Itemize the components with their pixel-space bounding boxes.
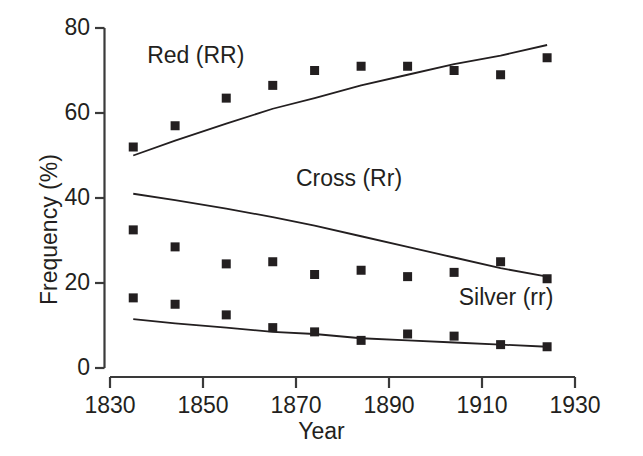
data-marker (496, 70, 505, 79)
x-tick-label: 1910 (442, 392, 522, 419)
data-marker (129, 225, 138, 234)
data-marker (310, 66, 319, 75)
data-marker (222, 310, 231, 319)
x-tick-label: 1830 (70, 392, 150, 419)
y-tick-label: 20 (64, 269, 90, 296)
data-marker (129, 293, 138, 302)
data-marker (222, 259, 231, 268)
data-marker (129, 143, 138, 152)
data-marker (403, 272, 412, 281)
y-axis-title: Frequency (%) (36, 154, 63, 305)
data-marker (357, 336, 366, 345)
data-marker (450, 332, 459, 341)
data-marker (357, 62, 366, 71)
data-marker (496, 340, 505, 349)
y-tick-label: 60 (64, 99, 90, 126)
chart-figure: Frequency (%) Year 020406080 18301850187… (0, 0, 643, 456)
data-marker (543, 53, 552, 62)
data-marker (171, 242, 180, 251)
y-tick-label: 80 (64, 14, 90, 41)
data-marker (496, 257, 505, 266)
data-marker (310, 270, 319, 279)
data-marker (543, 342, 552, 351)
data-marker (171, 121, 180, 130)
data-marker (310, 327, 319, 336)
data-marker (268, 81, 277, 90)
chart-plot-area (0, 0, 643, 456)
series-label-red-rr: Red (RR) (147, 42, 244, 69)
data-marker (450, 66, 459, 75)
data-marker (222, 94, 231, 103)
data-marker (268, 323, 277, 332)
data-marker (450, 268, 459, 277)
series-label-silver-rr: Silver (rr) (459, 284, 554, 311)
x-tick-label: 1890 (349, 392, 429, 419)
data-marker (403, 62, 412, 71)
x-tick-label: 1870 (256, 392, 336, 419)
data-marker (268, 257, 277, 266)
data-marker (403, 330, 412, 339)
y-tick-label: 0 (77, 354, 90, 381)
y-tick-label: 40 (64, 184, 90, 211)
x-axis-title: Year (0, 418, 643, 445)
x-tick-label: 1850 (163, 392, 243, 419)
data-marker (357, 266, 366, 275)
series-label-cross-rr: Cross (Rr) (296, 165, 402, 192)
trend-line-cross-rr (133, 194, 547, 277)
trend-line-silver-rr (133, 319, 547, 347)
axes (95, 28, 575, 388)
data-marker (171, 300, 180, 309)
data-marker (543, 274, 552, 283)
x-tick-label: 1930 (535, 392, 615, 419)
